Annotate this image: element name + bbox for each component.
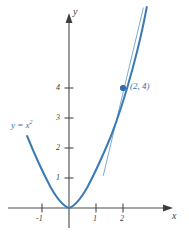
x-tick-label-2: 2 [120, 214, 124, 223]
curve-equation-label: y = x2 [11, 119, 33, 130]
plot-canvas [0, 0, 189, 236]
y-axis-label: y [73, 6, 77, 17]
y-tick-label-4: 4 [56, 83, 60, 92]
y-tick-label-2: 2 [56, 143, 60, 152]
parabola-curve [27, 7, 147, 208]
tangent-line [103, 8, 143, 176]
curve-equation-base: y = x [11, 120, 30, 130]
point-coordinate-label: (2, 4) [130, 81, 150, 91]
point-marker-2-4 [120, 85, 126, 91]
x-tick-label-1: 1 [93, 214, 97, 223]
y-tick-label-3: 3 [56, 113, 60, 122]
x-axis-label: x [172, 210, 176, 221]
y-tick-label-1: 1 [56, 173, 60, 182]
figure-parabola-tangent: x y -1 1 2 1 2 3 4 y = x2 (2, 4) [0, 0, 189, 236]
x-tick-label--1: -1 [36, 214, 43, 223]
axes-group [8, 13, 173, 228]
curve-equation-exponent: 2 [30, 119, 33, 125]
y-axis-arrowhead [66, 13, 73, 23]
